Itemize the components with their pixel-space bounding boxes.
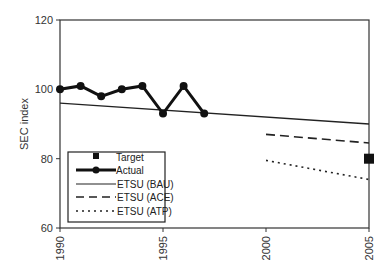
y-tick-80: 80 [41, 153, 53, 165]
series-bau-line [60, 103, 369, 124]
legend-atp: ETSU (ATP) [117, 206, 172, 217]
x-tick-1990: 1990 [54, 236, 66, 260]
y-tick-60: 60 [41, 222, 53, 234]
y-axis-label: SEC index [18, 98, 30, 150]
x-tick-2005: 2005 [363, 236, 375, 260]
y-tick-100: 100 [35, 83, 53, 95]
sec-index-chart: 120 100 80 60 SEC index 1990 1995 2000 2… [0, 0, 392, 273]
x-tick-2000: 2000 [260, 236, 272, 260]
legend-target: Target [116, 152, 144, 163]
y-axis: 120 100 80 60 SEC index [18, 14, 60, 234]
series-ace-line [266, 134, 369, 143]
series-atp-line [266, 160, 369, 179]
y-tick-120: 120 [35, 14, 53, 26]
x-axis: 1990 1995 2000 2005 [54, 228, 375, 260]
target-marker [364, 154, 374, 164]
legend: Target Actual ETSU (BAU) ETSU (ACE) ETSU… [68, 152, 174, 222]
legend-actual: Actual [116, 165, 144, 176]
legend-bau: ETSU (BAU) [117, 179, 174, 190]
legend-ace: ETSU (ACE) [117, 192, 174, 203]
x-tick-1995: 1995 [157, 236, 169, 260]
